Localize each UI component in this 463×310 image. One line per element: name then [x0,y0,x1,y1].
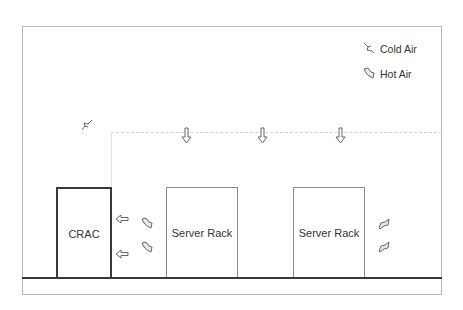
down-arrow-icon [181,127,193,144]
crac-unit: CRAC [56,187,112,278]
server-rack-2: Server Rack [293,187,365,278]
hot-air-arrow-icon [377,217,391,231]
hot-air-left-2 [140,240,154,258]
hot-air-arrow-icon [140,240,154,254]
legend-hot-air [362,66,376,84]
plenum-return-line [111,132,112,187]
ceiling-plenum-dashed-line [111,132,442,133]
return-arrow-1 [115,210,129,228]
left-arrow-icon [115,249,129,259]
hot-air-arrow-icon [140,216,154,230]
raised-floor-line [22,277,442,279]
down-arrow-2 [257,127,269,148]
legend-label-cold-air: Cold Air [380,43,417,55]
crac-label: CRAC [68,228,99,240]
return-arrow-2 [115,245,129,263]
server-rack-1-label: Server Rack [172,227,233,239]
hot-air-right-1 [377,217,391,235]
hot-air-arrow-icon [377,240,391,254]
down-arrow-3 [335,127,347,148]
down-arrow-icon [335,127,347,144]
left-arrow-icon [115,214,129,224]
hot-air-left-1 [140,216,154,234]
down-arrow-1 [181,127,193,148]
server-rack-1: Server Rack [166,187,238,278]
legend-label-hot-air: Hot Air [380,68,412,80]
down-arrow-icon [257,127,269,144]
hot-air-arrow-icon [362,66,376,80]
cold-air-arrow-icon [80,118,94,132]
hot-air-right-2 [377,240,391,258]
server-rack-2-label: Server Rack [299,227,360,239]
cold-air-arrow-icon [362,41,376,55]
legend-cold-air [362,41,376,59]
crac-intake-cold-air-icon [80,118,94,136]
